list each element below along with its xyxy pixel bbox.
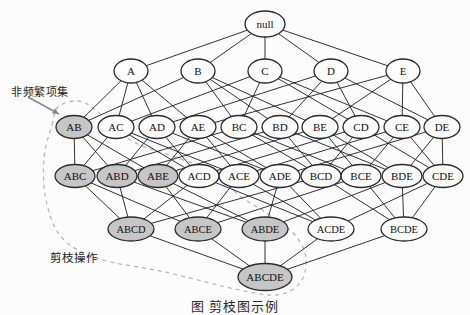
svg-text:CE: CE [395, 121, 409, 133]
svg-text:BCE: BCE [350, 170, 372, 182]
svg-text:D: D [327, 65, 335, 77]
node-BD: BD [262, 116, 298, 139]
node-D: D [314, 59, 348, 83]
node-ABCD: ABCD [108, 217, 154, 241]
node-ABCE: ABCE [175, 217, 221, 241]
node-AD: AD [139, 116, 175, 139]
svg-text:AC: AC [108, 121, 123, 133]
svg-text:BE: BE [313, 121, 327, 133]
node-ACE: ACE [219, 165, 259, 188]
figure-caption: 图 剪枝图示例 [0, 296, 470, 315]
svg-text:BCDE: BCDE [390, 224, 418, 235]
node-ABC: ABC [55, 165, 95, 188]
node-ABD: ABD [97, 165, 137, 188]
node-ACD: ACD [179, 165, 219, 188]
svg-text:ACDE: ACDE [317, 224, 346, 235]
svg-text:BDE: BDE [391, 170, 413, 182]
infrequent-arrow [28, 97, 59, 114]
svg-text:ABCE: ABCE [184, 224, 212, 235]
node-AB: AB [56, 116, 92, 139]
label-infrequent-itemset: 非频繁项集 [11, 83, 69, 99]
svg-text:CDE: CDE [432, 170, 454, 182]
node-ABE: ABE [138, 165, 178, 188]
svg-text:DE: DE [435, 121, 450, 133]
svg-text:ABCDE: ABCDE [246, 271, 284, 283]
node-C: C [248, 59, 282, 83]
svg-text:B: B [194, 65, 201, 77]
svg-text:ABCD: ABCD [116, 224, 146, 235]
svg-text:CD: CD [353, 121, 368, 133]
svg-text:ABE: ABE [147, 170, 169, 182]
node-AE: AE [180, 116, 216, 139]
node-CD: CD [343, 116, 379, 139]
svg-text:ABD: ABD [105, 170, 128, 182]
node-BDE: BDE [382, 165, 422, 188]
svg-text:AB: AB [66, 121, 81, 133]
svg-text:AD: AD [149, 121, 165, 133]
node-DE: DE [424, 116, 460, 139]
node-BCE: BCE [341, 165, 381, 188]
node-ADE: ADE [260, 165, 300, 188]
svg-text:ACD: ACD [187, 170, 210, 182]
node-ABCDE: ABCDE [238, 264, 292, 291]
svg-text:AE: AE [191, 121, 206, 133]
svg-text:C: C [261, 65, 268, 77]
svg-text:BC: BC [232, 121, 247, 133]
node-null: null [245, 11, 285, 37]
node-ACDE: ACDE [308, 217, 354, 241]
node-BC: BC [221, 116, 257, 139]
svg-text:null: null [256, 18, 273, 30]
svg-text:A: A [127, 65, 135, 77]
node-A: A [114, 59, 148, 83]
svg-text:BCD: BCD [310, 170, 333, 182]
node-CE: CE [384, 116, 420, 139]
svg-text:BD: BD [272, 121, 287, 133]
svg-text:ABDE: ABDE [251, 224, 280, 235]
svg-text:E: E [400, 65, 407, 77]
node-BCDE: BCDE [381, 217, 427, 241]
node-BE: BE [302, 116, 338, 139]
node-ABDE: ABDE [242, 217, 288, 241]
svg-text:ABC: ABC [64, 170, 87, 182]
node-CDE: CDE [423, 165, 463, 188]
node-E: E [386, 59, 420, 83]
node-AC: AC [98, 116, 134, 139]
label-prune-operation: 剪枝操作 [50, 249, 98, 265]
node-BCD: BCD [301, 165, 341, 188]
node-B: B [181, 59, 215, 83]
svg-text:ADE: ADE [269, 170, 292, 182]
svg-text:ACE: ACE [228, 170, 250, 182]
